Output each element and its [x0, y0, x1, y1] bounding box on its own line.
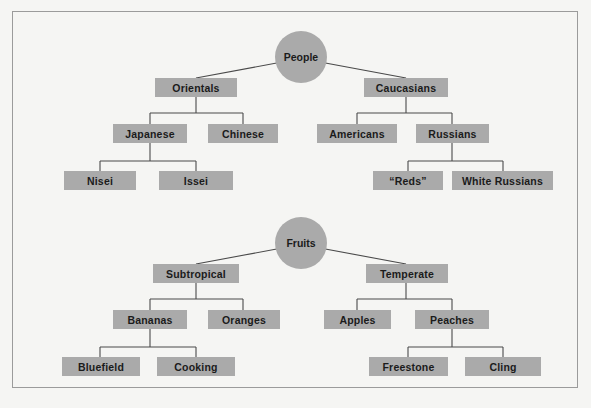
- node-bananas: Bananas: [113, 310, 187, 329]
- node-temperate: Temperate: [366, 264, 448, 283]
- node-oranges: Oranges: [208, 310, 280, 329]
- node-label: Temperate: [380, 268, 434, 280]
- node-label: Caucasians: [376, 82, 436, 94]
- diagram-canvas: People Orientals Caucasians Japanese Chi…: [0, 0, 591, 408]
- node-label: Peaches: [430, 314, 474, 326]
- node-label: Chinese: [222, 128, 264, 140]
- node-caucasians: Caucasians: [364, 78, 448, 97]
- node-subtropical: Subtropical: [153, 264, 239, 283]
- node-freestone: Freestone: [369, 357, 448, 376]
- node-japanese: Japanese: [113, 124, 187, 143]
- edge-fruits-temperate: [320, 248, 406, 264]
- node-label: Fruits: [286, 237, 315, 249]
- node-americans: Americans: [317, 124, 397, 143]
- node-label: Cooking: [174, 361, 217, 373]
- node-label: Russians: [428, 128, 476, 140]
- node-cling: Cling: [465, 357, 541, 376]
- node-label: Apples: [339, 314, 375, 326]
- node-label: Bluefield: [78, 361, 124, 373]
- node-people-root: People: [275, 31, 327, 83]
- node-label: Orientals: [172, 82, 219, 94]
- edge-people-caucasians: [320, 62, 406, 78]
- edge-fruits-subtropical: [196, 248, 282, 264]
- node-label: Freestone: [383, 361, 435, 373]
- node-chinese: Chinese: [208, 124, 278, 143]
- node-label: Cling: [489, 361, 516, 373]
- node-label: “Reds”: [389, 175, 426, 187]
- node-label: Issei: [184, 175, 208, 187]
- node-label: Subtropical: [166, 268, 226, 280]
- edge-people-orientals: [196, 62, 282, 78]
- node-label: White Russians: [462, 175, 543, 187]
- node-issei: Issei: [159, 171, 233, 190]
- node-label: Bananas: [127, 314, 172, 326]
- node-orientals: Orientals: [155, 78, 237, 97]
- node-label: Americans: [329, 128, 385, 140]
- node-bluefield: Bluefield: [62, 357, 140, 376]
- node-label: People: [284, 51, 318, 63]
- node-label: Japanese: [125, 128, 174, 140]
- node-apples: Apples: [324, 310, 391, 329]
- node-russians: Russians: [416, 124, 489, 143]
- node-nisei: Nisei: [64, 171, 136, 190]
- node-white-russians: White Russians: [452, 171, 553, 190]
- node-fruits-root: Fruits: [275, 217, 327, 269]
- node-reds: “Reds”: [373, 171, 443, 190]
- node-cooking: Cooking: [157, 357, 235, 376]
- node-peaches: Peaches: [415, 310, 489, 329]
- node-label: Oranges: [222, 314, 266, 326]
- node-label: Nisei: [87, 175, 113, 187]
